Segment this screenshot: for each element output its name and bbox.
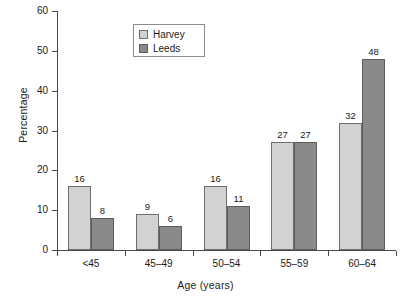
bar-value-label: 48	[354, 47, 394, 57]
legend-swatch-leeds	[139, 44, 148, 53]
bar-value-label: 11	[219, 194, 259, 204]
y-tick	[52, 131, 57, 132]
y-tick-label: 50	[24, 46, 48, 56]
bar-value-label: 9	[128, 202, 168, 212]
y-tick	[52, 91, 57, 92]
bar-value-label: 16	[60, 174, 100, 184]
x-tick	[193, 251, 194, 256]
bar-leeds-1	[159, 226, 182, 250]
bar-value-label: 27	[286, 130, 326, 140]
legend: Harvey Leeds	[133, 24, 205, 57]
bar-leeds-4	[362, 59, 385, 250]
bar-leeds-0	[91, 218, 114, 250]
bar-value-label: 16	[196, 174, 236, 184]
bar-harvey-0	[68, 186, 91, 250]
x-tick	[396, 251, 397, 256]
bar-value-label: 6	[151, 214, 191, 224]
x-tick	[57, 251, 58, 256]
bar-harvey-3	[271, 142, 294, 250]
bar-leeds-2	[227, 206, 250, 250]
y-axis-title: Percentage	[17, 70, 29, 160]
legend-item-harvey: Harvey	[139, 28, 204, 41]
legend-item-leeds: Leeds	[139, 42, 204, 55]
y-tick	[52, 170, 57, 171]
bar-value-label: 8	[83, 206, 123, 216]
y-tick-label: 40	[24, 86, 48, 96]
x-axis-line	[57, 250, 396, 251]
x-tick	[328, 251, 329, 256]
y-tick	[52, 11, 57, 12]
x-tick-label: 60–64	[322, 258, 402, 270]
legend-swatch-harvey	[139, 30, 148, 39]
bar-chart: Percentage 0102030405060 <4545–4950–5455…	[0, 0, 411, 305]
x-axis-title: Age (years)	[0, 279, 411, 291]
bar-harvey-4	[339, 123, 362, 250]
x-tick	[260, 251, 261, 256]
y-tick-label: 30	[24, 126, 48, 136]
y-axis-line	[57, 11, 58, 251]
y-tick	[52, 51, 57, 52]
y-tick-label: 0	[24, 245, 48, 255]
x-tick	[125, 251, 126, 256]
legend-label-harvey: Harvey	[153, 30, 185, 40]
y-tick	[52, 210, 57, 211]
legend-label-leeds: Leeds	[153, 44, 180, 54]
y-tick-label: 60	[24, 6, 48, 16]
y-tick-label: 10	[24, 205, 48, 215]
bar-leeds-3	[294, 142, 317, 250]
y-tick-label: 20	[24, 165, 48, 175]
